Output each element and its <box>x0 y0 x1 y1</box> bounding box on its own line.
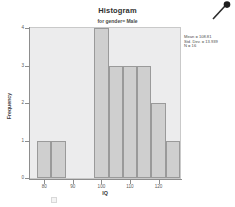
x-tick-label: 100 <box>90 184 112 189</box>
y-tick-mark <box>25 178 29 179</box>
magnifier-cursor-icon <box>210 1 232 21</box>
y-tick-mark <box>25 66 29 67</box>
histogram-chart: Histogram for gender= Male 01234 8090100… <box>0 0 235 207</box>
x-tick-label: 120 <box>148 184 170 189</box>
histogram-bar <box>94 28 108 178</box>
histogram-bar <box>151 103 165 178</box>
plot-area <box>29 27 181 179</box>
bars-container <box>30 28 180 178</box>
y-axis-line <box>29 27 30 180</box>
y-tick-mark <box>25 103 29 104</box>
x-axis-title: IQ <box>29 190 181 196</box>
histogram-bar <box>37 141 51 179</box>
page-artifact <box>51 197 57 203</box>
chart-title: Histogram <box>0 6 235 15</box>
x-tick-label: 110 <box>119 184 141 189</box>
histogram-bar <box>166 141 180 179</box>
x-tick-label: 90 <box>62 184 84 189</box>
y-tick-label: 3 <box>2 63 24 68</box>
y-tick-mark <box>25 141 29 142</box>
chart-subtitle: for gender= Male <box>0 18 235 24</box>
histogram-bar <box>51 141 65 179</box>
histogram-bar <box>109 66 123 179</box>
y-tick-label: 1 <box>2 138 24 143</box>
histogram-bar <box>123 66 137 179</box>
y-tick-label: 0 <box>2 175 24 180</box>
y-tick-mark <box>25 28 29 29</box>
y-axis-title: Frequency <box>6 76 12 136</box>
x-tick-label: 80 <box>33 184 55 189</box>
stat-n: N = 16 <box>184 44 232 48</box>
histogram-bar <box>137 66 151 179</box>
statistics-annotation: Mean = 108.81 Std. Dev. = 13.939 N = 16 <box>184 35 232 49</box>
y-tick-label: 4 <box>2 25 24 30</box>
